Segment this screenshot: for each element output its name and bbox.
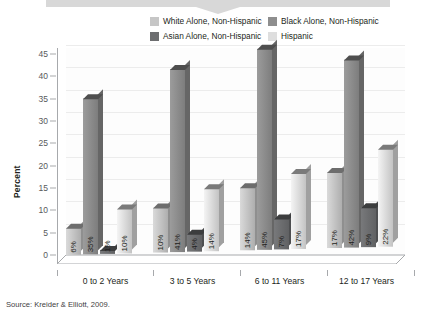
y-tick-mark: [50, 54, 56, 55]
x-tick-mark: [57, 270, 58, 276]
legend-swatch-icon: [150, 32, 159, 41]
x-tick-mark: [327, 270, 328, 276]
bar[interactable]: 41%: [170, 69, 185, 252]
bar[interactable]: 10%: [117, 209, 132, 254]
y-tick-label: 30: [39, 116, 48, 126]
bar-value-label: 14%: [204, 167, 219, 250]
bar-group: 17%42%9%22%: [318, 48, 405, 264]
bar-value-label: 7%: [274, 196, 289, 247]
bar[interactable]: 35%: [83, 98, 98, 254]
y-tick-mark: [50, 255, 56, 256]
y-tick-mark: [50, 143, 56, 144]
bar[interactable]: 17%: [327, 172, 342, 248]
y-tick-mark: [50, 210, 56, 211]
y-tick-mark: [50, 98, 56, 99]
x-axis-label: 3 to 5 Years: [170, 276, 215, 286]
bar-value-label: 1%: [100, 227, 115, 251]
bar-value-label: 6%: [66, 206, 81, 253]
bar[interactable]: 9%: [361, 207, 376, 247]
bar-side-face: [219, 180, 224, 248]
legend-item[interactable]: White Alone, Non-Hispanic: [150, 17, 268, 26]
legend-item[interactable]: Black Alone, Non-Hispanic: [268, 17, 422, 26]
legend-swatch-icon: [150, 17, 159, 26]
y-tick-label: 20: [39, 161, 48, 171]
legend-item[interactable]: Asian Alone, Non-Hispanic: [150, 32, 268, 41]
legend-label: Black Alone, Non-Hispanic: [281, 17, 379, 26]
x-tick-mark: [153, 270, 154, 276]
bar[interactable]: 17%: [291, 173, 306, 249]
y-tick-mark: [50, 232, 56, 233]
chart-area: Percent 051015202530354045 6%35%1%10%10%…: [0, 48, 424, 298]
bar-value-label: 4%: [187, 212, 202, 250]
bar-value-label: 22%: [378, 126, 393, 244]
banner-notch: [196, 7, 240, 14]
bar-side-face: [306, 164, 311, 245]
bar[interactable]: 42%: [344, 60, 359, 248]
bar[interactable]: 14%: [204, 189, 219, 252]
bar-value-label: 14%: [240, 166, 255, 249]
x-tick-mark: [240, 270, 241, 276]
y-tick-mark: [50, 165, 56, 166]
x-axis-labels: 0 to 2 Years3 to 5 Years6 to 11 Years12 …: [57, 276, 405, 292]
bar[interactable]: 7%: [274, 218, 289, 249]
legend-label: Asian Alone, Non-Hispanic: [163, 32, 261, 41]
bar[interactable]: 14%: [240, 188, 255, 251]
y-tick-mark: [50, 188, 56, 189]
y-tick-label: 15: [39, 183, 48, 193]
y-axis-title: Percent: [12, 165, 22, 198]
y-tick-label: 0: [43, 250, 48, 260]
y-tick-mark: [50, 76, 56, 77]
x-axis-label: 6 to 11 Years: [255, 276, 305, 286]
y-tick-label: 10: [39, 205, 48, 215]
bar[interactable]: 10%: [153, 208, 168, 253]
legend-label: White Alone, Non-Hispanic: [163, 17, 262, 26]
bar-value-label: 17%: [291, 151, 306, 247]
bar-value-label: 35%: [83, 76, 98, 252]
bar-side-face: [393, 139, 398, 242]
y-tick-label: 45: [39, 49, 48, 59]
bar-value-label: 9%: [361, 185, 376, 245]
y-tick-mark: [50, 121, 56, 122]
chart-legend: White Alone, Non-HispanicBlack Alone, No…: [150, 14, 422, 44]
x-tick-mark: [414, 270, 415, 276]
bar-value-label: 10%: [153, 186, 168, 251]
bar[interactable]: 45%: [257, 49, 272, 250]
bar[interactable]: 4%: [187, 234, 202, 252]
source-note: Source: Kreider & Elliott, 2009.: [6, 300, 110, 309]
bar-value-label: 10%: [117, 187, 132, 252]
bar-value-label: 42%: [344, 38, 359, 246]
bar-series-container: 6%35%1%10%10%41%4%14%14%45%7%17%17%42%9%…: [57, 48, 405, 264]
bar-value-label: 45%: [257, 27, 272, 248]
bar-value-label: 41%: [170, 47, 185, 250]
x-axis-label: 0 to 2 Years: [83, 276, 128, 286]
y-axis-ticks: 051015202530354045: [26, 48, 56, 264]
bar[interactable]: 22%: [378, 148, 393, 246]
x-axis-label: 12 to 17 Years: [339, 276, 394, 286]
top-banner: [46, 0, 390, 7]
bar-group: 6%35%1%10%: [57, 48, 144, 264]
bar-value-label: 17%: [327, 150, 342, 246]
bar-group: 10%41%4%14%: [144, 48, 231, 264]
legend-label: Hispanic: [281, 32, 313, 41]
y-tick-label: 35: [39, 94, 48, 104]
bar[interactable]: 1%: [100, 249, 115, 253]
bar-group: 14%45%7%17%: [231, 48, 318, 264]
y-tick-label: 5: [43, 228, 48, 238]
y-tick-label: 40: [39, 71, 48, 81]
legend-swatch-icon: [268, 17, 277, 26]
y-tick-label: 25: [39, 138, 48, 148]
bar[interactable]: 6%: [66, 228, 81, 255]
bar-side-face: [98, 89, 103, 250]
